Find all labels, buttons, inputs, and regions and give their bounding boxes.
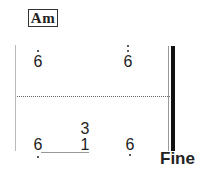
octave-dot-above <box>127 45 129 47</box>
octave-dot-below <box>37 156 39 158</box>
octave-dot-above <box>37 50 39 52</box>
upper-note-2: 6 <box>122 54 134 70</box>
fine-marking: Fine <box>160 149 195 169</box>
voice-divider <box>17 96 170 97</box>
upper-note-1: 6 <box>32 54 44 70</box>
final-barline-thin <box>168 46 169 151</box>
beam-underline <box>41 152 89 153</box>
lower-note-3: 6 <box>124 137 136 153</box>
final-barline-thick <box>171 46 175 151</box>
octave-dot-below <box>129 154 131 156</box>
chord-symbol: Am <box>28 9 58 27</box>
octave-dot-above <box>127 50 129 52</box>
lower-note-1: 6 <box>32 137 44 153</box>
lower-note-2: 1 <box>79 137 91 153</box>
left-barline <box>15 45 16 151</box>
lower-note-2-stacked: 3 <box>79 121 91 137</box>
